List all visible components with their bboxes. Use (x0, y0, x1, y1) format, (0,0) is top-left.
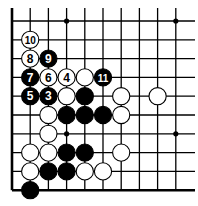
white-stone (113, 144, 130, 161)
white-stone-icon (113, 88, 130, 105)
black-stone (58, 106, 75, 123)
black-stone-icon (76, 88, 93, 105)
white-stone (94, 163, 111, 180)
black-stone (58, 163, 75, 180)
black-stone: 9 (40, 50, 57, 67)
white-stone-icon (40, 106, 57, 123)
white-stone-icon (22, 144, 39, 161)
black-stone: 11 (94, 69, 111, 86)
black-stone-icon (76, 144, 93, 161)
white-stone (22, 144, 39, 161)
white-stone: 6 (40, 69, 57, 86)
move-number-label: 6 (45, 71, 52, 85)
move-number-label: 10 (25, 35, 37, 46)
black-stone-icon (94, 106, 111, 123)
star-point-icon (173, 131, 178, 136)
white-stone-icon (76, 163, 93, 180)
black-stone-icon (40, 163, 57, 180)
black-stone (58, 144, 75, 161)
white-stone (22, 163, 39, 180)
black-stone: 7 (22, 69, 39, 86)
black-stone-icon (58, 106, 75, 123)
black-stone (40, 163, 57, 180)
white-stone-icon (40, 144, 57, 161)
white-stone (40, 144, 57, 161)
move-number-label: 11 (98, 73, 109, 84)
white-stone-icon (94, 163, 111, 180)
black-stone-icon (22, 182, 39, 199)
move-number-label: 9 (45, 52, 52, 66)
white-stone (113, 88, 130, 105)
white-stone (149, 88, 166, 105)
black-stone (94, 106, 111, 123)
white-stone-icon (22, 163, 39, 180)
white-stone (113, 106, 130, 123)
black-stone (22, 182, 39, 199)
white-stone-icon (113, 144, 130, 161)
black-stone (76, 144, 93, 161)
star-point-icon (64, 18, 69, 23)
white-stone: 4 (58, 69, 75, 86)
white-stone (76, 163, 93, 180)
white-stone-icon (149, 88, 166, 105)
white-stone (40, 125, 57, 142)
black-stone: 5 (22, 88, 39, 105)
star-point-icon (64, 131, 69, 136)
black-stone: 3 (40, 88, 57, 105)
black-stone-icon (58, 144, 75, 161)
black-stone-icon (58, 163, 75, 180)
move-number-label: 8 (27, 52, 34, 66)
go-board-diagram: 10897641153 (0, 0, 198, 206)
white-stone: 10 (22, 31, 39, 48)
move-number-label: 4 (63, 71, 70, 85)
white-stone-icon (76, 69, 93, 86)
move-number-label: 7 (27, 71, 34, 85)
move-number-label: 3 (45, 89, 52, 103)
black-stone (76, 88, 93, 105)
white-stone (40, 106, 57, 123)
black-stone-icon (76, 106, 93, 123)
white-stone-icon (58, 88, 75, 105)
black-stone (76, 106, 93, 123)
white-stone (76, 69, 93, 86)
white-stone (58, 88, 75, 105)
star-point-icon (173, 18, 178, 23)
white-stone-icon (113, 106, 130, 123)
white-stone-icon (40, 125, 57, 142)
white-stone: 8 (22, 50, 39, 67)
move-number-label: 5 (27, 89, 34, 103)
